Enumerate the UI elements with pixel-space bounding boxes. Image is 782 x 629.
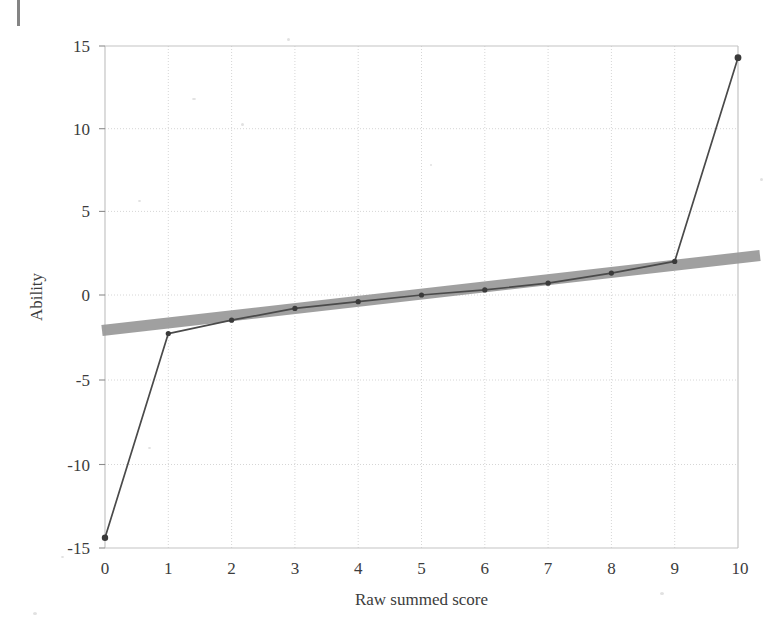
x-tick-label: 6 — [481, 559, 490, 578]
scan-speck — [241, 123, 244, 126]
y-tick-label: 5 — [82, 202, 91, 221]
scan-speck — [192, 98, 196, 100]
y-tick-label: 15 — [73, 37, 90, 56]
y-axis-tick-labels: 15 10 5 0 -5 -10 -15 — [67, 37, 90, 558]
x-tick-label: 0 — [101, 559, 110, 578]
y-axis-title: Ability — [27, 272, 46, 321]
x-tick-label: 7 — [544, 559, 553, 578]
x-tick-label: 8 — [607, 559, 616, 578]
scan-speck — [660, 592, 664, 595]
x-tick-label: 5 — [417, 559, 426, 578]
scan-speck — [138, 200, 141, 202]
y-tick-label: 10 — [73, 120, 90, 139]
y-tick-label: -10 — [67, 456, 90, 475]
x-tick-label: 2 — [227, 559, 236, 578]
x-axis-title: Raw summed score — [355, 590, 488, 609]
scan-speck — [760, 178, 763, 181]
y-axis-ticks — [99, 46, 105, 548]
scan-speck — [430, 164, 432, 166]
x-tick-label: 10 — [732, 559, 749, 578]
x-tick-label: 1 — [164, 559, 173, 578]
scan-speck — [287, 38, 290, 41]
y-tick-label: -5 — [76, 371, 90, 390]
x-tick-label: 9 — [670, 559, 679, 578]
scan-speck — [33, 612, 37, 615]
scan-speck — [61, 556, 64, 558]
x-tick-label: 3 — [291, 559, 300, 578]
x-axis-tick-labels: 0 1 2 3 4 5 6 7 8 9 10 — [101, 559, 749, 578]
ability-vs-raw-score-chart: 15 10 5 0 -5 -10 -15 0 1 2 3 4 5 6 7 8 9… — [0, 0, 782, 629]
x-tick-label: 4 — [354, 559, 363, 578]
figure-container: 15 10 5 0 -5 -10 -15 0 1 2 3 4 5 6 7 8 9… — [0, 0, 782, 629]
y-tick-label: -15 — [67, 539, 90, 558]
y-tick-label: 0 — [82, 286, 91, 305]
scan-speck — [148, 447, 151, 449]
